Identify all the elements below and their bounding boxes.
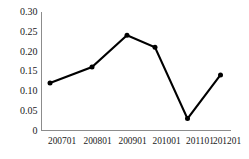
y-tick-label: 0 bbox=[33, 125, 38, 136]
x-tick-label: 200701 bbox=[48, 136, 76, 146]
x-tick-label: 200801 bbox=[83, 136, 111, 146]
x-tick-label: 201201 bbox=[213, 136, 241, 146]
data-point-marker bbox=[125, 33, 130, 38]
x-tick-label: 201101 bbox=[186, 136, 214, 146]
series-line-path bbox=[50, 35, 221, 118]
x-tick-label: 200901 bbox=[118, 136, 146, 146]
data-point-marker bbox=[153, 45, 158, 50]
x-tick-label-group: 200701200801200901201001201101201201 bbox=[48, 136, 241, 146]
x-tick-label: 201001 bbox=[152, 136, 180, 146]
line-chart: 00.050.100.150.200.250.30 20070120080120… bbox=[0, 0, 249, 159]
y-tick-label: 0.15 bbox=[20, 65, 38, 76]
y-tick-label-group: 00.050.100.150.200.250.30 bbox=[20, 6, 38, 136]
y-tick-label: 0.10 bbox=[20, 85, 38, 96]
chart-container: 00.050.100.150.200.250.30 20070120080120… bbox=[0, 0, 249, 159]
data-point-marker bbox=[185, 116, 190, 121]
y-tick-label: 0.25 bbox=[20, 26, 38, 37]
y-tick-label: 0.30 bbox=[20, 6, 38, 17]
y-tick-label: 0.20 bbox=[20, 46, 38, 57]
data-point-marker bbox=[218, 72, 223, 77]
data-point-marker bbox=[48, 80, 53, 85]
data-point-marker bbox=[90, 65, 95, 70]
y-tick-label: 0.05 bbox=[20, 105, 38, 116]
